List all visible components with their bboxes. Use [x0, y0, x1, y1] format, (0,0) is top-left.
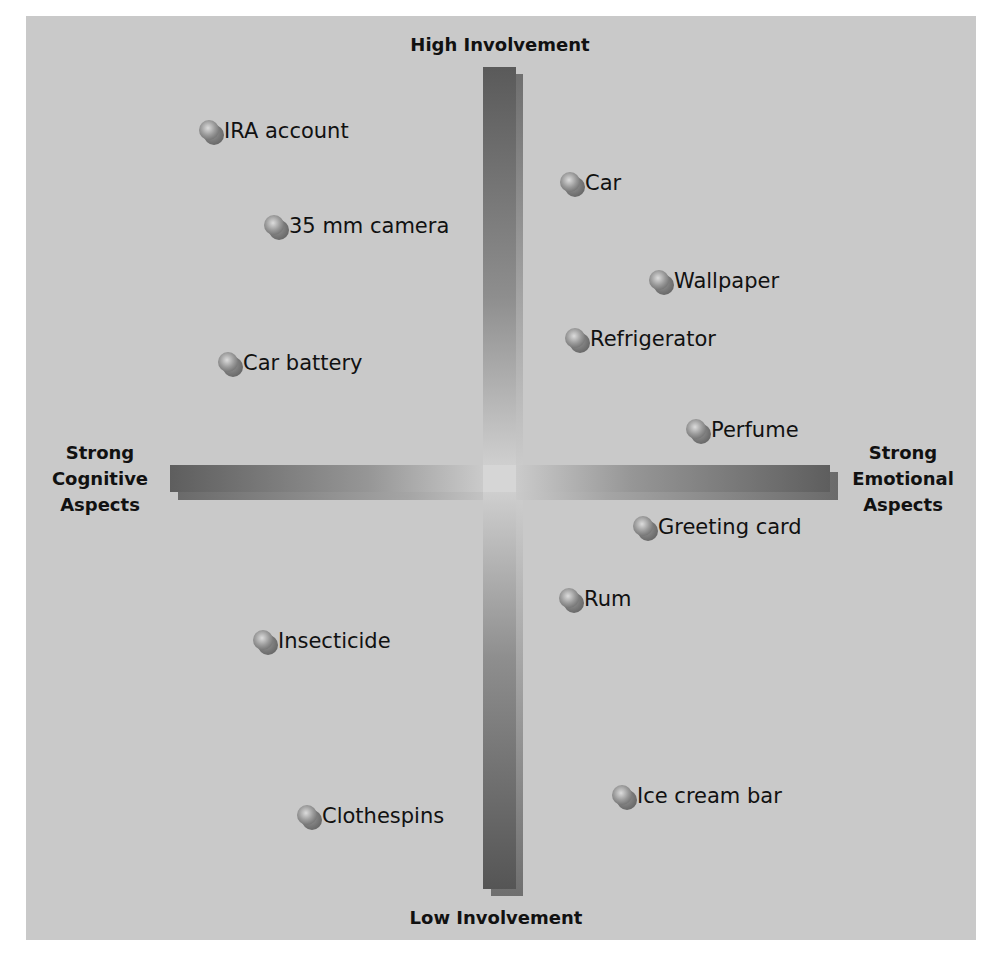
- axis-label-line: Aspects: [838, 492, 968, 518]
- axis-label-line: Aspects: [40, 492, 160, 518]
- product-label: Insecticide: [278, 629, 391, 653]
- product-item: Greeting card: [633, 513, 802, 541]
- product-item: Perfume: [686, 416, 799, 444]
- sphere-marker-icon: [199, 120, 221, 142]
- product-item: Insecticide: [253, 627, 391, 655]
- product-item: Car: [560, 169, 621, 197]
- axis-label-high-involvement: High Involvement: [360, 32, 640, 58]
- product-label: Refrigerator: [590, 327, 716, 351]
- sphere-marker-icon: [649, 270, 671, 292]
- sphere-marker-icon: [264, 215, 286, 237]
- product-label: Rum: [584, 587, 631, 611]
- product-item: Clothespins: [297, 802, 444, 830]
- product-item: Car battery: [218, 349, 363, 377]
- axis-intersection: [483, 465, 516, 492]
- product-label: Car: [585, 171, 621, 195]
- axis-label-line: Strong: [838, 440, 968, 466]
- product-label: Car battery: [243, 351, 363, 375]
- sphere-marker-icon: [297, 805, 319, 827]
- product-item: Rum: [559, 585, 631, 613]
- product-label: Perfume: [711, 418, 799, 442]
- sphere-marker-icon: [565, 328, 587, 350]
- product-item: IRA account: [199, 117, 349, 145]
- product-label: IRA account: [224, 119, 349, 143]
- product-label: Ice cream bar: [637, 784, 782, 808]
- product-item: 35 mm camera: [264, 212, 449, 240]
- product-item: Wallpaper: [649, 267, 779, 295]
- sphere-marker-icon: [686, 419, 708, 441]
- product-label: 35 mm camera: [289, 214, 449, 238]
- axis-label-line: Emotional: [838, 466, 968, 492]
- axis-label-low-involvement: Low Involvement: [356, 905, 636, 931]
- sphere-marker-icon: [559, 588, 581, 610]
- product-label: Greeting card: [658, 515, 802, 539]
- axis-label-line: Cognitive: [40, 466, 160, 492]
- axis-label-strong-emotional: Strong Emotional Aspects: [838, 440, 968, 518]
- product-label: Wallpaper: [674, 269, 779, 293]
- product-item: Ice cream bar: [612, 782, 782, 810]
- sphere-marker-icon: [253, 630, 275, 652]
- product-item: Refrigerator: [565, 325, 716, 353]
- sphere-marker-icon: [560, 172, 582, 194]
- sphere-marker-icon: [612, 785, 634, 807]
- axis-label-strong-cognitive: Strong Cognitive Aspects: [40, 440, 160, 518]
- sphere-marker-icon: [218, 352, 240, 374]
- sphere-marker-icon: [633, 516, 655, 538]
- axis-label-line: Strong: [40, 440, 160, 466]
- product-label: Clothespins: [322, 804, 444, 828]
